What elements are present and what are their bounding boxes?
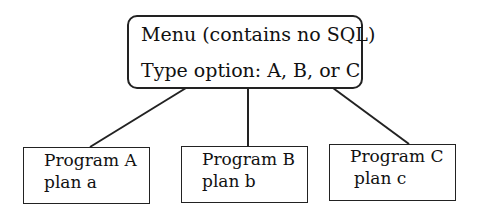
program-b-name: Program B bbox=[202, 149, 295, 169]
program-c-plan: plan c bbox=[354, 168, 406, 188]
program-c-node: Program C plan c bbox=[329, 144, 456, 201]
menu-instruction: Type option: A, B, or C bbox=[141, 59, 360, 81]
connector-menu-to-c bbox=[333, 88, 409, 144]
connector-menu-to-a bbox=[90, 88, 186, 147]
program-c-name: Program C bbox=[350, 146, 443, 166]
menu-node: Menu (contains no SQL) Type option: A, B… bbox=[127, 15, 363, 89]
program-a-plan: plan a bbox=[44, 172, 97, 192]
menu-title: Menu (contains no SQL) bbox=[141, 23, 375, 45]
program-a-name: Program A bbox=[44, 150, 137, 170]
program-b-plan: plan b bbox=[202, 171, 256, 191]
program-b-node: Program B plan b bbox=[181, 146, 308, 203]
program-a-node: Program A plan a bbox=[23, 147, 150, 204]
